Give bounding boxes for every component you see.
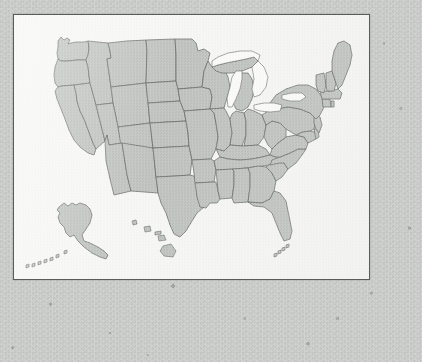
- contiguous-us-states[interactable]: [54, 37, 352, 241]
- hawaii-inset[interactable]: [132, 220, 176, 257]
- lake-erie: [254, 103, 282, 112]
- state-louisiana[interactable]: [195, 182, 220, 208]
- hawaii-big-island: [160, 244, 176, 257]
- state-oregon[interactable]: [54, 59, 90, 87]
- state-washington[interactable]: [57, 37, 89, 61]
- florida-keys: [274, 244, 289, 257]
- state-alabama[interactable]: [232, 168, 250, 203]
- state-connecticut[interactable]: [322, 99, 331, 107]
- state-kansas[interactable]: [150, 121, 189, 148]
- state-north-dakota[interactable]: [146, 39, 176, 83]
- state-nebraska[interactable]: [148, 101, 186, 123]
- hawaii-molokai: [155, 231, 161, 235]
- key-islands: [274, 244, 289, 257]
- state-rhode-island[interactable]: [331, 101, 334, 107]
- state-indiana[interactable]: [230, 111, 246, 146]
- hawaii-maui: [158, 235, 166, 241]
- state-oklahoma[interactable]: [153, 146, 192, 177]
- united-states-map[interactable]: [14, 15, 369, 279]
- screenshot-canvas: [0, 0, 422, 362]
- aleutian-islands: [26, 250, 67, 268]
- state-south-dakota[interactable]: [146, 81, 180, 103]
- state-montana[interactable]: [107, 40, 147, 87]
- state-vermont[interactable]: [316, 73, 326, 93]
- alaska-inset[interactable]: [26, 203, 108, 268]
- hawaii-oahu: [144, 226, 151, 232]
- hawaii-kauai: [132, 220, 137, 225]
- state-mississippi[interactable]: [216, 169, 234, 199]
- lake-huron: [252, 61, 268, 97]
- us-map-poster[interactable]: [13, 14, 370, 280]
- state-iowa[interactable]: [178, 87, 212, 111]
- state-arkansas[interactable]: [192, 159, 216, 183]
